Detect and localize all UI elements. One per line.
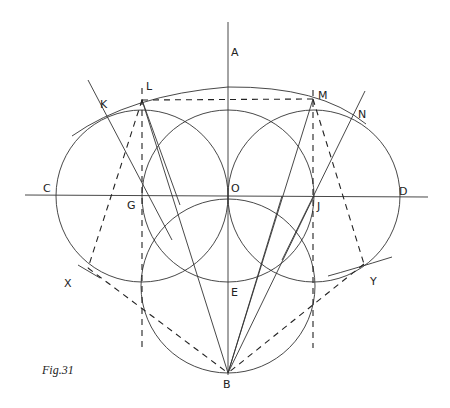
label-N: N	[358, 108, 366, 121]
label-X: X	[64, 277, 72, 290]
label-J: J	[316, 200, 320, 213]
arc-X	[78, 265, 100, 278]
label-M: M	[318, 89, 328, 102]
arc-Y	[328, 257, 392, 276]
label-D: D	[399, 185, 407, 198]
figure-caption: Fig.31	[41, 363, 74, 377]
label-Y: Y	[369, 275, 377, 288]
label-E: E	[231, 286, 238, 299]
geometry-diagram: A L M K N C O D G J E X Y B Fig.31	[0, 0, 450, 408]
line-BG-to-J-side	[228, 196, 282, 373]
line-L-down	[142, 100, 180, 205]
label-O: O	[231, 182, 240, 195]
line-BJ	[228, 196, 314, 373]
label-B: B	[223, 378, 231, 391]
label-G: G	[127, 199, 136, 212]
line-BL	[142, 100, 228, 373]
label-A: A	[231, 46, 239, 59]
label-K: K	[100, 98, 108, 111]
dashed-LM	[142, 99, 313, 100]
dashed-XB	[88, 268, 228, 373]
dashed-LX	[88, 100, 142, 268]
line-NJ	[282, 91, 365, 260]
horizontal-axis-CD	[25, 195, 428, 197]
label-L: L	[146, 80, 153, 93]
label-C: C	[43, 182, 51, 195]
